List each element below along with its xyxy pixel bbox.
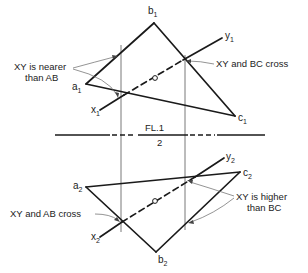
annotation-higher: XY is higher <box>236 191 287 202</box>
line-x1-y1-visible-lower <box>100 95 124 110</box>
label-x2: x2 <box>91 231 100 244</box>
line-x2-y2-hidden <box>122 177 195 222</box>
annotation-higher-2: than BC <box>247 202 281 213</box>
label-a1: a1 <box>72 81 82 94</box>
visibility-diagram: b1 a1 c1 x1 y1 XY is nearer than AB XY a… <box>0 0 308 273</box>
annotation-cross-bc: XY and BC cross <box>216 58 288 69</box>
label-y2: y2 <box>226 151 235 164</box>
fold-line-label-bottom: 2 <box>157 137 162 148</box>
label-c2: c2 <box>243 167 252 180</box>
edge-a1-c1 <box>86 84 235 116</box>
fold-line-1-2: FL.1 2 <box>55 122 265 148</box>
label-x1: x1 <box>91 104 100 117</box>
leader-cross-bc <box>188 61 214 64</box>
fold-line-label-top: FL.1 <box>145 122 164 133</box>
annotation-nearer-2: than AB <box>25 72 58 83</box>
label-b1: b1 <box>148 5 158 18</box>
leader-nearer-upper <box>73 57 114 68</box>
leader-cross-ab <box>95 214 118 220</box>
arrow-nearer-lower <box>115 92 119 98</box>
edge-b2-c2 <box>156 172 240 252</box>
label-a2: a2 <box>73 180 83 193</box>
point-marker-2 <box>153 199 158 204</box>
edge-a2-c2 <box>86 172 240 187</box>
view-2: a2 b2 c2 x2 y2 XY and AB cross XY is hig… <box>10 151 287 267</box>
view-1: b1 a1 c1 x1 y1 XY is nearer than AB XY a… <box>14 5 288 125</box>
point-marker-1 <box>153 76 158 81</box>
annotation-cross-ab: XY and AB cross <box>10 208 81 219</box>
arrow-higher-upper <box>187 180 193 184</box>
label-y1: y1 <box>225 30 234 43</box>
leader-higher-lower <box>191 198 234 222</box>
line-x1-y1-visible-upper <box>183 38 222 60</box>
edge-a1-b1 <box>86 23 154 84</box>
label-b2: b2 <box>158 254 168 267</box>
line-x2-y2-visible-lower <box>100 222 122 237</box>
label-c1: c1 <box>238 112 247 125</box>
annotation-nearer: XY is nearer <box>14 61 66 72</box>
